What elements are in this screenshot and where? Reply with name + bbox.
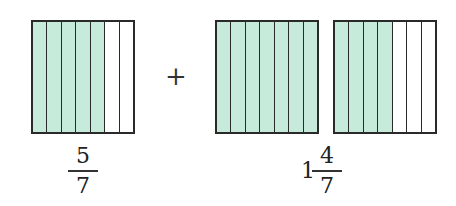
shaded-part xyxy=(364,22,378,132)
unshaded-part xyxy=(120,22,133,132)
shaded-part xyxy=(246,22,260,132)
shaded-part xyxy=(349,22,363,132)
shaded-part xyxy=(289,22,303,132)
shaded-part xyxy=(62,22,76,132)
shaded-part xyxy=(231,22,245,132)
fraction-five-sevenths: 5 7 xyxy=(68,145,98,197)
shaded-part xyxy=(335,22,349,132)
model-b1 xyxy=(215,20,319,134)
unshaded-part xyxy=(422,22,435,132)
plus-sign: + xyxy=(165,63,187,89)
model-a xyxy=(31,20,135,134)
denominator: 7 xyxy=(76,175,90,197)
shaded-part xyxy=(378,22,392,132)
numerator: 5 xyxy=(76,145,90,167)
shaded-part xyxy=(76,22,90,132)
shaded-part xyxy=(260,22,274,132)
unshaded-part xyxy=(407,22,421,132)
shaded-part xyxy=(304,22,317,132)
unshaded-part xyxy=(393,22,407,132)
shaded-part xyxy=(275,22,289,132)
unshaded-part xyxy=(105,22,119,132)
denominator: 7 xyxy=(320,175,334,197)
shaded-part xyxy=(33,22,47,132)
shaded-part xyxy=(47,22,61,132)
model-b2 xyxy=(333,20,437,134)
fraction-bar xyxy=(68,170,98,172)
shaded-part xyxy=(91,22,105,132)
shaded-part xyxy=(217,22,231,132)
fraction-four-sevenths: 4 7 xyxy=(312,145,342,197)
fraction-bar xyxy=(312,170,342,172)
numerator: 4 xyxy=(320,145,334,167)
